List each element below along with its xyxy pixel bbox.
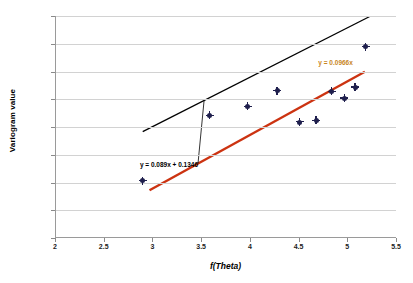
y-axis-title: Variogram value <box>4 0 22 240</box>
data-point <box>297 120 302 125</box>
x-tick-mark <box>347 238 348 242</box>
y-tick-mark <box>51 155 55 156</box>
x-tick-label: 3.5 <box>186 243 216 250</box>
x-tick-mark <box>250 238 251 242</box>
data-point <box>314 118 319 123</box>
y-tick-mark <box>51 183 55 184</box>
x-tick-mark <box>55 238 56 242</box>
black-trendline-equation: y = 0.089x + 0.1346 <box>140 160 198 167</box>
x-tick-label: 5 <box>332 243 362 250</box>
gridline-horizontal <box>56 155 396 156</box>
gridline-horizontal <box>56 44 396 45</box>
x-tick-label: 2.5 <box>89 243 119 250</box>
x-tick-label: 4.5 <box>284 243 314 250</box>
plot-area <box>55 16 396 238</box>
x-tick-label: 4 <box>235 243 265 250</box>
x-tick-mark <box>104 238 105 242</box>
variogram-scatter-chart: Variogram value f(Theta) 0.20.250.30.350… <box>0 0 413 283</box>
gridline-horizontal <box>56 183 396 184</box>
data-point <box>353 85 358 90</box>
red-trendline-equation: y = 0.0966x <box>318 59 353 66</box>
y-tick-mark <box>51 44 55 45</box>
x-tick-label: 5.5 <box>381 243 411 250</box>
y-tick-mark <box>51 127 55 128</box>
x-tick-mark <box>299 238 300 242</box>
x-tick-mark <box>152 238 153 242</box>
y-tick-mark <box>51 16 55 17</box>
gridline-horizontal <box>56 16 396 17</box>
y-axis-title-label: Variogram value <box>9 88 18 151</box>
x-tick-label: 3 <box>137 243 167 250</box>
y-tick-mark <box>51 99 55 100</box>
gridline-horizontal <box>56 210 396 211</box>
y-tick-mark <box>51 72 55 73</box>
x-tick-mark <box>396 238 397 242</box>
trendline <box>143 16 370 131</box>
data-point <box>342 96 347 101</box>
y-tick-mark <box>51 210 55 211</box>
x-tick-mark <box>201 238 202 242</box>
gridline-horizontal <box>56 72 396 73</box>
gridline-horizontal <box>56 127 396 128</box>
x-axis-title: f(Theta) <box>55 261 396 271</box>
x-tick-label: 2 <box>40 243 70 250</box>
